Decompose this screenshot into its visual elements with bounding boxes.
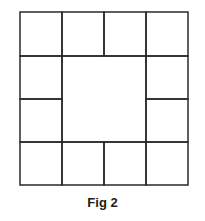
grid-cell bbox=[146, 12, 188, 56]
grid-cell bbox=[146, 142, 188, 185]
grid-cell bbox=[20, 56, 62, 99]
grid-cell bbox=[62, 142, 104, 185]
grid-cell bbox=[20, 12, 62, 56]
grid-cell bbox=[62, 12, 104, 56]
grid-cell bbox=[20, 142, 62, 185]
grid-cell bbox=[104, 12, 146, 56]
grid-cell bbox=[104, 142, 146, 185]
center-square bbox=[62, 56, 146, 142]
figure-caption: Fig 2 bbox=[0, 195, 205, 210]
grid-cell bbox=[146, 99, 188, 142]
grid-cell bbox=[146, 56, 188, 99]
grid-figure bbox=[0, 0, 205, 221]
grid-cell bbox=[20, 99, 62, 142]
